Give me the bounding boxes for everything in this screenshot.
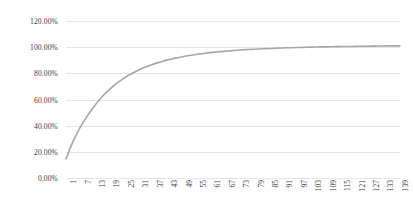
x-axis-tick-label: 31 [141,180,150,188]
series-path-cumulative [66,46,400,159]
y-axis-tick-label: 120.00% [30,17,58,26]
x-axis-tick-label: 25 [127,180,136,188]
y-axis: 0.00%20.00%40.00%60.00%80.00%100.00%120.… [0,0,64,214]
cumulative-percentage-line-chart: 0.00%20.00%40.00%60.00%80.00%100.00%120.… [0,0,414,214]
x-axis-tick-label: 37 [156,180,165,188]
x-axis-tick-label: 19 [112,180,121,188]
x-axis-tick-label: 139 [401,180,410,191]
x-axis-tick-label: 7 [84,180,93,184]
x-axis-tick-label: 49 [185,180,194,188]
x-axis-tick-label: 103 [314,180,323,191]
y-axis-tick-label: 60.00% [34,95,58,104]
x-axis: 1713192531374349556167737985919710310911… [66,180,400,214]
x-axis-tick-label: 115 [343,180,352,191]
x-axis-tick-label: 109 [329,180,338,191]
x-axis-tick-label: 91 [285,180,294,188]
x-axis-tick-label: 73 [242,180,251,188]
x-axis-tick-label: 133 [386,180,395,191]
x-axis-tick-label: 55 [199,180,208,188]
y-axis-tick-label: 80.00% [34,69,58,78]
y-axis-tick-label: 20.00% [34,147,58,156]
x-axis-tick-label: 43 [170,180,179,188]
x-axis-tick-label: 61 [213,180,222,188]
x-axis-tick-label: 121 [358,180,367,191]
x-axis-tick-label: 127 [372,180,381,191]
x-axis-tick-label: 13 [98,180,107,188]
y-axis-tick-label: 40.00% [34,121,58,130]
y-axis-tick-label: 0.00% [38,174,58,183]
x-axis-tick-label: 1 [69,180,78,184]
x-axis-tick-label: 97 [300,180,309,188]
x-axis-tick-label: 79 [257,180,266,188]
y-axis-tick-label: 100.00% [30,43,58,52]
x-axis-tick-label: 85 [271,180,280,188]
x-axis-tick-label: 67 [228,180,237,188]
